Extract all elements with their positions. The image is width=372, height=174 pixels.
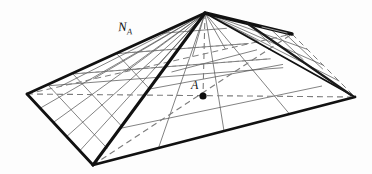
center-point-dot	[199, 92, 206, 99]
face-normal-label: NA	[118, 20, 133, 37]
center-point-label: A	[191, 79, 198, 91]
face-normal-subscript: A	[127, 26, 133, 36]
face-normal-base: N	[118, 19, 127, 34]
pyramid-diagram	[0, 0, 372, 174]
figure-canvas: NA A	[0, 0, 372, 174]
